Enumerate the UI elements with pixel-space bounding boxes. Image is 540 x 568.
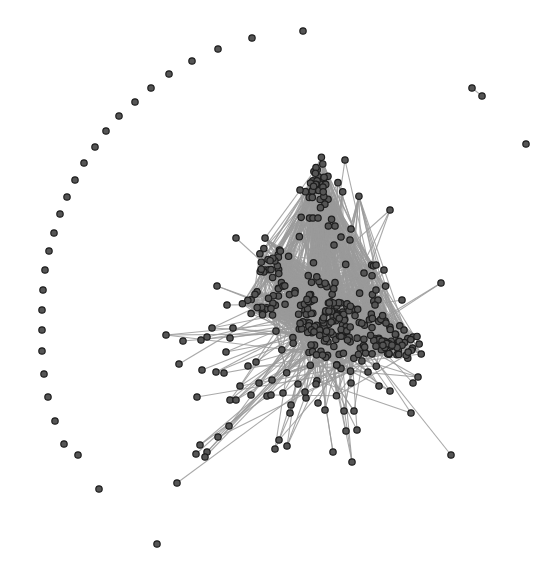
graph-node: [399, 297, 405, 303]
graph-node: [96, 486, 102, 492]
graph-node: [305, 272, 311, 278]
graph-node: [340, 350, 346, 356]
graph-node: [204, 334, 210, 340]
graph-node: [320, 161, 326, 167]
graph-node: [209, 325, 215, 331]
graph-node: [386, 350, 392, 356]
graph-node: [310, 260, 316, 266]
graph-node: [174, 480, 180, 486]
graph-node: [258, 266, 264, 272]
graph-node: [75, 452, 81, 458]
graph-node: [303, 395, 309, 401]
graph-node: [92, 144, 98, 150]
graph-node: [202, 454, 208, 460]
graph-node: [469, 85, 475, 91]
graph-node: [320, 189, 326, 195]
graph-node: [230, 325, 236, 331]
graph-node: [317, 204, 323, 210]
graph-node: [408, 336, 414, 342]
graph-node: [295, 381, 301, 387]
graph-node: [221, 370, 227, 376]
graph-node: [342, 157, 348, 163]
graph-node: [362, 350, 368, 356]
graph-node: [369, 315, 375, 321]
graph-node: [310, 183, 316, 189]
graph-node: [197, 442, 203, 448]
graph-node: [132, 99, 138, 105]
graph-node: [333, 362, 339, 368]
graph-node: [448, 452, 454, 458]
network-graph: [0, 0, 540, 568]
graph-node: [373, 363, 379, 369]
graph-node: [180, 338, 186, 344]
graph-node: [381, 267, 387, 273]
graph-node: [410, 380, 416, 386]
graph-node: [309, 194, 315, 200]
graph-node: [319, 352, 325, 358]
graph-node: [259, 311, 265, 317]
graph-node: [199, 367, 205, 373]
graph-node: [269, 274, 275, 280]
graph-node: [315, 215, 321, 221]
graph-node: [223, 349, 229, 355]
graph-node: [438, 280, 444, 286]
graph-node: [416, 341, 422, 347]
graph-node: [354, 335, 360, 341]
graph-node: [45, 394, 51, 400]
graph-node: [304, 296, 310, 302]
graph-node: [273, 328, 279, 334]
graph-edge: [317, 381, 411, 413]
graph-node: [336, 315, 342, 321]
graph-node: [383, 320, 389, 326]
graph-node: [252, 291, 258, 297]
graph-node: [382, 283, 388, 289]
graph-node: [39, 327, 45, 333]
graph-node: [343, 261, 349, 267]
graph-node: [46, 248, 52, 254]
graph-node: [268, 266, 274, 272]
graph-node: [373, 262, 379, 268]
graph-node: [267, 258, 273, 264]
graph-node: [154, 541, 160, 547]
graph-node: [194, 394, 200, 400]
nodes-layer: [39, 28, 529, 547]
graph-node: [61, 441, 67, 447]
graph-node: [42, 267, 48, 273]
graph-node: [317, 332, 323, 338]
graph-node: [369, 324, 375, 330]
graph-node: [352, 312, 358, 318]
graph-node: [295, 311, 301, 317]
graph-node: [351, 408, 357, 414]
graph-node: [265, 295, 271, 301]
graph-node: [279, 347, 285, 353]
graph-node: [215, 434, 221, 440]
graph-node: [333, 393, 339, 399]
graph-node: [269, 312, 275, 318]
graph-node: [297, 320, 303, 326]
graph-node: [339, 189, 345, 195]
graph-node: [373, 343, 379, 349]
graph-node: [282, 283, 288, 289]
graph-node: [356, 193, 362, 199]
graph-node: [57, 211, 63, 217]
graph-node: [523, 141, 529, 147]
graph-node: [373, 287, 379, 293]
graph-node: [287, 410, 293, 416]
graph-node: [325, 223, 331, 229]
graph-node: [41, 371, 47, 377]
graph-node: [285, 253, 291, 259]
graph-node: [349, 459, 355, 465]
graph-node: [272, 446, 278, 452]
graph-node: [387, 388, 393, 394]
graph-node: [344, 337, 350, 343]
graph-node: [415, 374, 421, 380]
graph-node: [332, 223, 338, 229]
graph-node: [369, 351, 375, 357]
graph-node: [347, 324, 353, 330]
graph-node: [348, 380, 354, 386]
graph-node: [387, 326, 393, 332]
graph-node: [249, 35, 255, 41]
graph-node: [405, 349, 411, 355]
graph-node: [308, 279, 314, 285]
graph-node: [268, 305, 274, 311]
